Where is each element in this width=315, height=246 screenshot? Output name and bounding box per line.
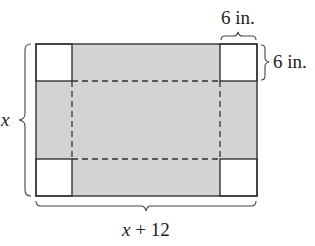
label-corner-width: 6 in. xyxy=(221,7,255,28)
open-box-diagram: 6 in. 6 in. x x + 12 xyxy=(0,0,315,246)
label-corner-height: 6 in. xyxy=(273,51,307,72)
label-width-x: x xyxy=(0,109,10,130)
corner-square-bottom-left xyxy=(36,159,72,196)
label-length: x + 12 xyxy=(121,219,170,240)
brace-bottom-length xyxy=(36,201,256,211)
brace-right-corner-height xyxy=(261,45,269,80)
brace-left-width xyxy=(19,44,31,196)
corner-square-bottom-right xyxy=(220,159,257,196)
corner-square-top-left xyxy=(36,44,72,81)
brace-top-corner-width xyxy=(221,32,256,40)
corner-square-top-right xyxy=(220,44,257,81)
